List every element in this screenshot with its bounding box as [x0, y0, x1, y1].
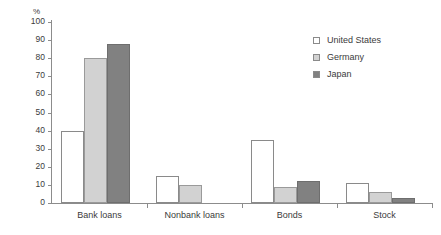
y-axis-tick-label: 60 — [36, 88, 45, 99]
bar — [392, 198, 415, 203]
chart-legend: United StatesGermanyJapan — [313, 33, 381, 84]
x-axis-category-label: Stock — [373, 209, 396, 221]
bar — [179, 185, 202, 203]
x-axis-separator-tick — [242, 203, 243, 208]
y-axis-tick-label: 40 — [36, 125, 45, 136]
legend-label: United States — [327, 35, 381, 46]
legend-swatch-icon — [313, 54, 320, 61]
y-axis-tick-label: 80 — [36, 52, 45, 63]
bar — [369, 192, 392, 203]
y-axis-tick-label: 50 — [36, 107, 45, 118]
x-axis-separator-tick — [432, 203, 433, 208]
bar — [156, 176, 179, 203]
y-axis-tick-label: 20 — [36, 161, 45, 172]
y-axis-tick-label: 0 — [40, 197, 45, 208]
y-axis-tick-label: 30 — [36, 143, 45, 154]
y-axis-tick-label: 10 — [36, 179, 45, 190]
y-axis-tick-mark — [48, 203, 52, 204]
legend-label: Japan — [327, 69, 352, 80]
y-axis-tick-label: 70 — [36, 70, 45, 81]
bar — [297, 181, 320, 203]
legend-item[interactable]: United States — [313, 33, 381, 47]
bar — [107, 44, 130, 203]
legend-item[interactable]: Japan — [313, 67, 381, 81]
legend-swatch-icon — [313, 71, 320, 78]
x-axis-separator-tick — [147, 203, 148, 208]
bar — [84, 58, 107, 203]
bar — [274, 187, 297, 203]
y-axis-tick-label: 90 — [36, 34, 45, 45]
legend-swatch-icon — [313, 37, 320, 44]
x-axis-category-label: Nonbank loans — [164, 209, 224, 221]
bar — [251, 140, 274, 203]
y-axis-tick-label: 100 — [31, 16, 45, 27]
legend-label: Germany — [327, 52, 364, 63]
x-axis-separator-tick — [337, 203, 338, 208]
x-axis-category-label: Bonds — [277, 209, 303, 221]
bar — [61, 131, 84, 203]
x-axis-category-label: Bank loans — [77, 209, 122, 221]
legend-item[interactable]: Germany — [313, 50, 381, 64]
bar-chart: % 1009080706050403020100 Bank loansNonba… — [0, 0, 441, 235]
bar — [346, 183, 369, 203]
